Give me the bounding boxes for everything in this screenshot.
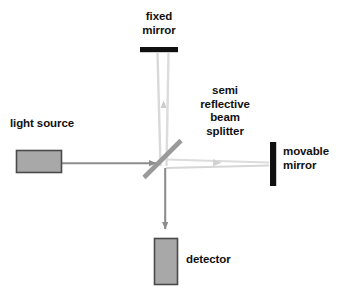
label-detector: detector (186, 253, 256, 267)
detector-box (155, 239, 178, 285)
label-light-source: light source (10, 117, 120, 131)
interferometer-diagram: fixed mirror semi reflective beam splitt… (0, 0, 347, 296)
beam-arrow-up (161, 101, 167, 109)
label-beam-splitter: semi reflective beam splitter (184, 84, 266, 138)
fixed-mirror-bar (140, 47, 178, 52)
label-movable-mirror: movable mirror (283, 145, 347, 172)
beam-splitter-to-fixed-mirror (158, 53, 169, 166)
movable-mirror-bar (270, 142, 276, 186)
light-source-box (17, 151, 62, 173)
beam-splitter-to-movable-mirror (166, 159, 269, 168)
label-fixed-mirror: fixed mirror (118, 10, 200, 37)
